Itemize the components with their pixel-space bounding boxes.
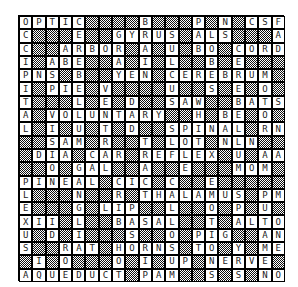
letter-cell[interactable]: N [272, 122, 285, 135]
letter-cell[interactable]: A [59, 149, 72, 162]
letter-cell[interactable]: A [192, 189, 205, 202]
letter-cell[interactable]: I [112, 202, 125, 215]
letter-cell[interactable]: T [192, 242, 205, 255]
letter-cell[interactable]: P [125, 202, 138, 215]
letter-cell[interactable]: I [192, 122, 205, 135]
letter-cell[interactable]: C [19, 29, 32, 42]
letter-cell[interactable]: C [112, 176, 125, 189]
letter-cell[interactable]: A [85, 162, 98, 175]
letter-cell[interactable]: W [192, 96, 205, 109]
letter-cell[interactable]: A [245, 96, 258, 109]
letter-cell[interactable]: O [19, 16, 32, 29]
letter-cell[interactable]: S [218, 29, 231, 42]
letter-cell[interactable]: P [192, 16, 205, 29]
letter-cell[interactable]: N [99, 109, 112, 122]
letter-cell[interactable]: E [99, 96, 112, 109]
letter-cell[interactable]: A [72, 242, 85, 255]
letter-cell[interactable]: O [258, 82, 271, 95]
letter-cell[interactable]: A [258, 229, 271, 242]
letter-cell[interactable]: U [85, 109, 98, 122]
letter-cell[interactable]: I [46, 122, 59, 135]
letter-cell[interactable]: H [152, 189, 165, 202]
letter-cell[interactable]: O [205, 202, 218, 215]
letter-cell[interactable]: R [59, 242, 72, 255]
letter-cell[interactable]: L [19, 122, 32, 135]
letter-cell[interactable]: O [272, 269, 285, 282]
letter-cell[interactable]: T [99, 122, 112, 135]
letter-cell[interactable]: A [272, 29, 285, 42]
letter-cell[interactable]: F [165, 149, 178, 162]
letter-cell[interactable]: L [232, 136, 245, 149]
letter-cell[interactable]: R [232, 255, 245, 268]
letter-cell[interactable]: P [179, 122, 192, 135]
letter-cell[interactable]: D [125, 96, 138, 109]
letter-cell[interactable]: D [72, 269, 85, 282]
letter-cell[interactable]: B [72, 69, 85, 82]
letter-cell[interactable]: O [258, 109, 271, 122]
letter-cell[interactable]: S [205, 269, 218, 282]
letter-cell[interactable]: O [125, 242, 138, 255]
letter-cell[interactable]: S [46, 69, 59, 82]
letter-cell[interactable]: N [152, 242, 165, 255]
letter-cell[interactable]: L [99, 162, 112, 175]
letter-cell[interactable]: L [72, 96, 85, 109]
letter-cell[interactable]: B [232, 96, 245, 109]
letter-cell[interactable]: E [218, 255, 231, 268]
letter-cell[interactable]: A [125, 215, 138, 228]
letter-cell[interactable]: I [205, 229, 218, 242]
letter-cell[interactable]: V [245, 255, 258, 268]
letter-cell[interactable]: E [59, 176, 72, 189]
letter-cell[interactable]: O [245, 162, 258, 175]
letter-cell[interactable]: U [218, 189, 231, 202]
letter-cell[interactable]: Y [112, 69, 125, 82]
letter-cell[interactable]: L [205, 29, 218, 42]
letter-cell[interactable]: C [85, 149, 98, 162]
letter-cell[interactable]: L [72, 109, 85, 122]
letter-cell[interactable]: B [192, 43, 205, 56]
letter-cell[interactable]: O [59, 109, 72, 122]
letter-cell[interactable]: E [232, 82, 245, 95]
letter-cell[interactable]: N [46, 176, 59, 189]
letter-cell[interactable]: M [165, 269, 178, 282]
letter-cell[interactable]: G [218, 229, 231, 242]
letter-cell[interactable]: N [205, 255, 218, 268]
letter-cell[interactable]: T [139, 189, 152, 202]
letter-cell[interactable]: L [179, 189, 192, 202]
letter-cell[interactable]: O [99, 43, 112, 56]
letter-cell[interactable]: P [192, 229, 205, 242]
letter-cell[interactable]: L [85, 176, 98, 189]
letter-cell[interactable]: A [99, 149, 112, 162]
letter-cell[interactable]: M [258, 242, 271, 255]
letter-cell[interactable]: L [245, 215, 258, 228]
letter-cell[interactable]: F [272, 16, 285, 29]
letter-cell[interactable]: U [85, 269, 98, 282]
letter-cell[interactable]: A [272, 149, 285, 162]
letter-cell[interactable]: H [112, 242, 125, 255]
letter-cell[interactable]: A [72, 176, 85, 189]
letter-cell[interactable]: A [258, 149, 271, 162]
letter-cell[interactable]: R [232, 69, 245, 82]
letter-cell[interactable]: E [72, 56, 85, 69]
letter-cell[interactable]: N [32, 69, 45, 82]
letter-cell[interactable]: M [205, 189, 218, 202]
letter-cell[interactable]: E [205, 69, 218, 82]
letter-cell[interactable]: P [258, 189, 271, 202]
letter-cell[interactable]: E [179, 69, 192, 82]
letter-cell[interactable]: S [165, 29, 178, 42]
letter-cell[interactable]: L [165, 136, 178, 149]
letter-cell[interactable]: I [125, 176, 138, 189]
letter-cell[interactable]: O [112, 255, 125, 268]
letter-cell[interactable]: P [32, 16, 45, 29]
letter-cell[interactable]: C [165, 176, 178, 189]
letter-cell[interactable]: N [245, 136, 258, 149]
letter-cell[interactable]: D [32, 149, 45, 162]
letter-cell[interactable]: G [72, 202, 85, 215]
letter-cell[interactable]: O [59, 255, 72, 268]
letter-cell[interactable]: A [19, 109, 32, 122]
letter-cell[interactable]: O [272, 215, 285, 228]
letter-cell[interactable]: N [72, 189, 85, 202]
letter-cell[interactable]: I [46, 215, 59, 228]
letter-cell[interactable]: M [72, 136, 85, 149]
letter-cell[interactable]: N [218, 136, 231, 149]
letter-cell[interactable]: A [59, 136, 72, 149]
